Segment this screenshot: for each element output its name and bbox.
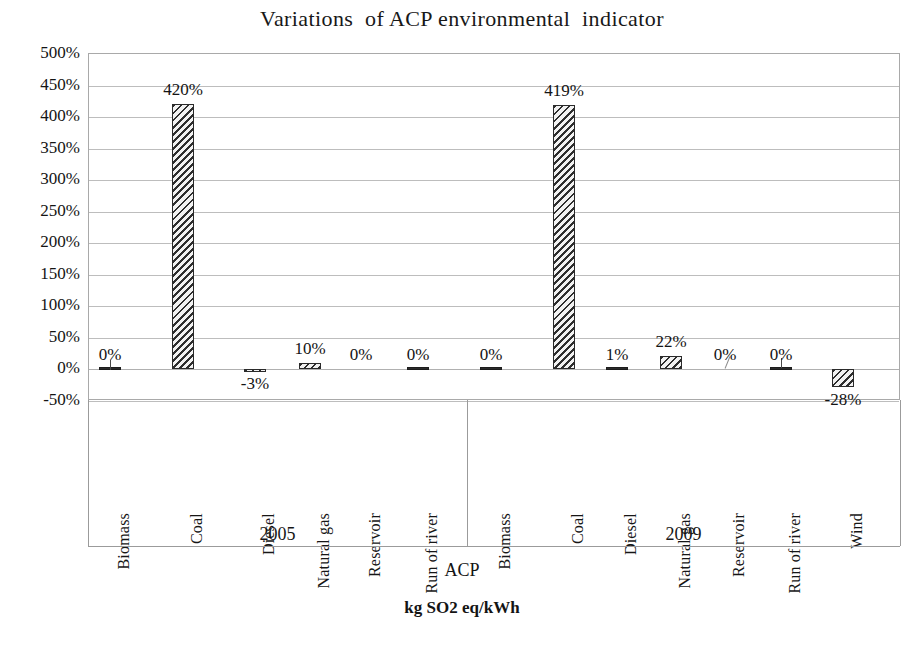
bar-1-wind[interactable] — [832, 369, 854, 387]
bar-value-label: 0% — [407, 345, 430, 365]
y-axis-tick: 200% — [6, 232, 86, 252]
group-baseline — [88, 546, 900, 547]
x-axis-title: ACP — [0, 560, 924, 581]
group-label-2005: 2005 — [260, 524, 296, 545]
bar-1-natural-gas[interactable] — [660, 356, 682, 370]
group-separator — [467, 400, 468, 546]
bar-1-diesel[interactable] — [606, 367, 628, 370]
gridline — [89, 338, 899, 339]
y-axis-tick: 50% — [6, 327, 86, 347]
x-axis-category-labels: BiomassCoalDieselNatural gasReservoirRun… — [88, 401, 900, 521]
chart-title: Variations of ACP environmental indicato… — [0, 6, 924, 32]
gridline — [89, 212, 899, 213]
plot-area: 0%420%-3%10%0%0%0%419%1%22%0%0%-28% — [88, 53, 900, 400]
gridline — [89, 86, 899, 87]
x-axis-label-run-of-river: Run of river — [786, 513, 804, 594]
y-axis-tick: -50% — [6, 390, 86, 410]
x-axis-label-coal: Coal — [569, 513, 587, 544]
bar-0-coal[interactable] — [172, 104, 194, 369]
y-axis-tick: 150% — [6, 264, 86, 284]
y-axis-tick-labels: 500%450%400%350%300%250%200%150%100%50%0… — [0, 53, 86, 400]
bar-0-run-of-river[interactable] — [407, 367, 429, 370]
bar-value-label: 0% — [350, 345, 373, 365]
group-label-2009: 2009 — [666, 524, 702, 545]
group-separator-right — [900, 400, 901, 546]
gridline — [89, 117, 899, 118]
chart-container: Variations of ACP environmental indicato… — [0, 0, 924, 649]
y-axis-tick: 0% — [6, 358, 86, 378]
gridline — [89, 149, 899, 150]
bar-value-label: 419% — [544, 81, 584, 101]
bar-value-label: -3% — [241, 374, 269, 394]
y-axis-tick: 500% — [6, 43, 86, 63]
x-axis-units: kg SO2 eq/kWh — [0, 598, 924, 618]
x-axis-label-coal: Coal — [188, 513, 206, 544]
group-separator-left — [88, 400, 89, 546]
y-axis-tick: 400% — [6, 106, 86, 126]
bar-value-label: 0% — [480, 345, 503, 365]
gridline — [89, 243, 899, 244]
y-axis-tick: 350% — [6, 138, 86, 158]
y-axis-tick: 300% — [6, 169, 86, 189]
bar-value-label: 22% — [655, 332, 686, 352]
y-axis-tick: 450% — [6, 75, 86, 95]
bar-value-label: 0% — [714, 345, 737, 365]
bar-0-diesel[interactable] — [244, 369, 266, 372]
y-axis-tick: 250% — [6, 201, 86, 221]
gridline — [89, 180, 899, 181]
bar-value-label: 0% — [99, 345, 122, 365]
bar-value-label: 10% — [294, 339, 325, 359]
bar-1-biomass[interactable] — [480, 367, 502, 370]
bar-1-coal[interactable] — [553, 105, 575, 369]
bar-value-label: 420% — [163, 80, 203, 100]
bar-0-natural-gas[interactable] — [299, 363, 321, 369]
bar-value-label: 0% — [770, 345, 793, 365]
y-axis-tick: 100% — [6, 295, 86, 315]
x-axis-label-run-of-river: Run of river — [423, 513, 441, 594]
gridline — [89, 275, 899, 276]
x-axis-label-wind: Wind — [848, 513, 866, 549]
gridline — [89, 306, 899, 307]
x-axis-label-diesel: Diesel — [622, 513, 640, 555]
bar-value-label: 1% — [606, 345, 629, 365]
